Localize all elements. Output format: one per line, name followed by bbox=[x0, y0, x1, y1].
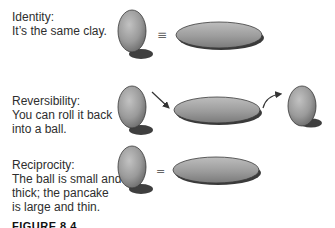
figure-caption: FIGURE 8.4 bbox=[12, 219, 77, 228]
identity-symbol: ≡ bbox=[157, 28, 167, 42]
clay-illustration: ≡ = bbox=[0, 0, 335, 228]
reversibility-ball-restored bbox=[288, 86, 322, 128]
identity-ball bbox=[118, 10, 153, 59]
reversibility-pancake bbox=[174, 97, 262, 125]
reciprocity-symbol: = bbox=[156, 165, 165, 178]
reciprocity-pancake bbox=[173, 157, 261, 185]
curved-arrow-icon bbox=[263, 94, 280, 108]
reversibility-ball bbox=[118, 86, 153, 135]
identity-pancake bbox=[176, 22, 264, 50]
arrow-right-icon bbox=[152, 92, 168, 107]
reciprocity-ball bbox=[118, 146, 153, 194]
